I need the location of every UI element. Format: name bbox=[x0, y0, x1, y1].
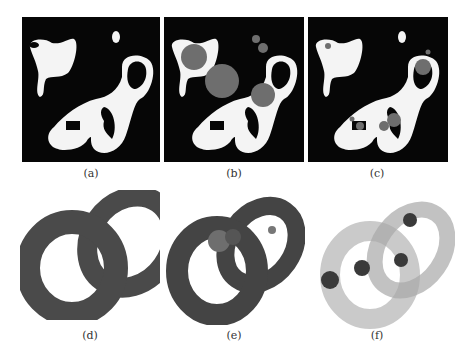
panel-d-label: (d) bbox=[70, 329, 110, 342]
panel-c-image bbox=[308, 17, 448, 162]
panel-a bbox=[22, 17, 160, 162]
panel-b-label: (b) bbox=[214, 167, 254, 180]
panel-e-label: (e) bbox=[214, 329, 254, 342]
panel-e-image bbox=[165, 195, 305, 325]
panel-b-image bbox=[164, 17, 304, 162]
panel-c-label: (c) bbox=[357, 167, 397, 180]
panel-c bbox=[308, 17, 448, 162]
panel-b bbox=[164, 17, 304, 162]
panel-f-image bbox=[315, 200, 455, 330]
panel-e bbox=[165, 195, 305, 325]
panel-d-image bbox=[20, 190, 160, 320]
panel-f bbox=[315, 200, 455, 330]
panel-a-image bbox=[22, 17, 160, 162]
panel-a-label: (a) bbox=[71, 167, 111, 180]
panel-f-label: (f) bbox=[357, 329, 397, 342]
panel-d bbox=[20, 190, 160, 320]
